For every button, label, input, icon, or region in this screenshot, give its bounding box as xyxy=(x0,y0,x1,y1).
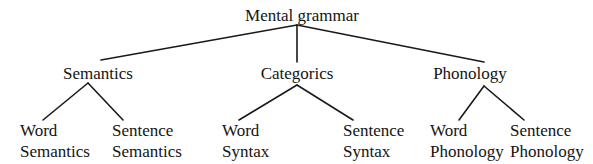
node-phonology: Phonology xyxy=(433,63,507,84)
leaf-word-semantics: Word Semantics xyxy=(20,120,90,162)
edge-phonology-sentence xyxy=(484,86,524,120)
leaf-line2: Semantics xyxy=(112,141,182,162)
leaf-line1: Sentence xyxy=(343,120,404,141)
leaf-sentence-semantics: Sentence Semantics xyxy=(112,120,182,162)
node-categorics: Categorics xyxy=(261,63,334,84)
leaf-line2: Semantics xyxy=(20,141,90,162)
leaf-word-syntax: Word Syntax xyxy=(222,120,269,162)
edge-root-semantics xyxy=(101,25,297,60)
leaf-line1: Sentence xyxy=(112,120,182,141)
edge-categorics-sentence xyxy=(297,85,353,120)
leaf-line1: Word xyxy=(222,120,269,141)
leaf-word-phonology: Word Phonology xyxy=(430,120,504,162)
leaf-line2: Syntax xyxy=(222,141,269,162)
leaf-sentence-phonology: Sentence Phonology xyxy=(510,120,584,162)
edge-root-phonology xyxy=(297,25,484,62)
node-root: Mental grammar xyxy=(245,5,359,26)
edge-phonology-word xyxy=(459,86,484,120)
leaf-line1: Word xyxy=(430,120,504,141)
node-semantics: Semantics xyxy=(63,63,133,84)
leaf-line2: Syntax xyxy=(343,141,404,162)
leaf-sentence-syntax: Sentence Syntax xyxy=(343,120,404,162)
leaf-line2: Phonology xyxy=(430,141,504,162)
leaf-line1: Word xyxy=(20,120,90,141)
edge-semantics-sentence xyxy=(88,83,123,120)
edge-semantics-word xyxy=(43,83,88,120)
edge-categorics-word xyxy=(239,85,297,120)
leaf-line1: Sentence xyxy=(510,120,584,141)
leaf-line2: Phonology xyxy=(510,141,584,162)
